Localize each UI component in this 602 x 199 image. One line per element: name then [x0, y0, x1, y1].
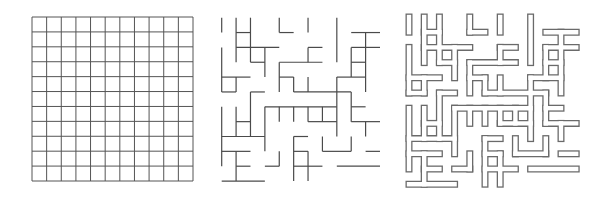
- maze-figure: [0, 0, 602, 199]
- maze-outlined-panel: [0, 0, 602, 199]
